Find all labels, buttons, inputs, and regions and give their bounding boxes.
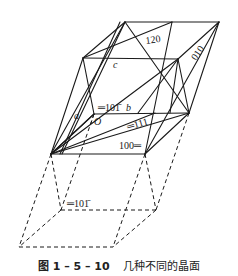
plane-traces [51, 22, 219, 154]
label-axis-c: c [113, 59, 118, 70]
caption-number: 图 1 – 5 – 10 [38, 260, 110, 273]
unit-cell-solid-edges [51, 22, 219, 154]
caption-title: 几种不同的晶面 [123, 260, 200, 273]
label-plane-100: 100═ [119, 140, 142, 151]
label-axis-a: a [74, 110, 79, 121]
label-plane-101-upper: ═101̄ [97, 102, 122, 113]
label-axis-b: b [126, 102, 131, 113]
label-plane-111: ═111 [125, 116, 149, 132]
label-plane-101-lower: ═101̄ [66, 198, 91, 209]
label-plane-120: 120 [145, 33, 161, 46]
crystal-planes-diagram: 120 010 c ═101̄ b a O ═111 100═ ═101̄ [0, 0, 238, 250]
label-origin: O [94, 116, 101, 127]
figure-caption: 图 1 – 5 – 10 几种不同的晶面 [0, 257, 238, 273]
